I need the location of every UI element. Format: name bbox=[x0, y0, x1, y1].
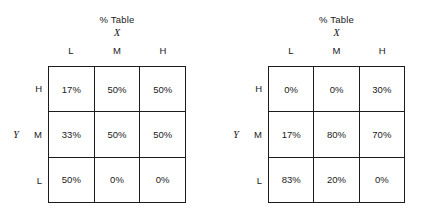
table-1-y-variable-label: Y bbox=[8, 66, 24, 203]
table-2-cell-m-l: 17% bbox=[269, 112, 314, 157]
table-2-row-headers: H M L bbox=[246, 66, 264, 203]
table-1-row-header-l: L bbox=[26, 157, 44, 203]
table-1-matrix: 17% 50% 50% 33% 50% 50% 50% 0% 0% bbox=[48, 66, 186, 203]
table-2-row-header-l: L bbox=[246, 157, 264, 203]
table-1-column-header-m: M bbox=[94, 45, 140, 57]
table-2-matrix: 0% 0% 30% 17% 80% 70% 83% 20% 0% bbox=[268, 66, 405, 203]
table-2-title: % Table bbox=[268, 14, 405, 26]
table-1-cell-h-m: 50% bbox=[94, 67, 140, 112]
table-row: 50% 0% 0% bbox=[49, 157, 186, 202]
table-2-column-header-m: M bbox=[314, 45, 360, 57]
table-2-column-headers: L M H bbox=[268, 45, 405, 57]
table-2-cell-m-h: 70% bbox=[359, 112, 404, 157]
table-2-y-variable-label: Y bbox=[228, 66, 244, 203]
table-2-title-block: % Table X bbox=[268, 14, 405, 39]
table-row: 17% 50% 50% bbox=[49, 67, 186, 112]
table-2-row-header-h: H bbox=[246, 66, 264, 112]
table-2-cell-h-m: 0% bbox=[314, 67, 359, 112]
table-1-row-header-h: H bbox=[26, 66, 44, 112]
table-2-cell-l-h: 0% bbox=[359, 157, 404, 202]
table-1-cell-l-h: 0% bbox=[140, 157, 186, 202]
table-1-title-block: % Table X bbox=[48, 14, 186, 39]
table-1-title: % Table bbox=[48, 14, 186, 26]
table-1-grid-wrapper: Y H M L 17% 50% 50% 33% 50% 50% bbox=[0, 66, 211, 203]
table-1-cell-h-h: 50% bbox=[140, 67, 186, 112]
table-1-column-header-h: H bbox=[140, 45, 186, 57]
table-1-cell-m-h: 50% bbox=[140, 112, 186, 157]
table-1-cell-l-m: 0% bbox=[94, 157, 140, 202]
table-2-cell-m-m: 80% bbox=[314, 112, 359, 157]
table-1-cell-h-l: 17% bbox=[49, 67, 95, 112]
table-row: 83% 20% 0% bbox=[269, 157, 405, 202]
percent-table-panel-1: % Table X L M H Y H M L 17% 50% 50% bbox=[0, 0, 211, 224]
table-1-row-header-m: M bbox=[26, 112, 44, 158]
table-2-x-variable-label: X bbox=[268, 26, 405, 39]
table-1-cell-l-l: 50% bbox=[49, 157, 95, 202]
table-1-x-variable-label: X bbox=[48, 26, 186, 39]
table-row: 0% 0% 30% bbox=[269, 67, 405, 112]
table-1-column-headers: L M H bbox=[48, 45, 186, 57]
table-2-cell-l-l: 83% bbox=[269, 157, 314, 202]
table-2-column-header-h: H bbox=[359, 45, 405, 57]
table-row: 17% 80% 70% bbox=[269, 112, 405, 157]
table-1-row-headers: H M L bbox=[26, 66, 44, 203]
percent-table-panel-2: % Table X L M H Y H M L 0% 0% 30% bbox=[211, 0, 422, 224]
percent-tables-page: % Table X L M H Y H M L 17% 50% 50% bbox=[0, 0, 422, 224]
table-2-cell-h-h: 30% bbox=[359, 67, 404, 112]
table-row: 33% 50% 50% bbox=[49, 112, 186, 157]
table-2-grid-wrapper: Y H M L 0% 0% 30% 17% 80% 70% bbox=[211, 66, 422, 203]
table-2-cell-h-l: 0% bbox=[269, 67, 314, 112]
table-1-column-header-l: L bbox=[48, 45, 94, 57]
table-2-cell-l-m: 20% bbox=[314, 157, 359, 202]
table-1-cell-m-l: 33% bbox=[49, 112, 95, 157]
table-2-row-header-m: M bbox=[246, 112, 264, 158]
table-1-cell-m-m: 50% bbox=[94, 112, 140, 157]
table-2-column-header-l: L bbox=[268, 45, 314, 57]
